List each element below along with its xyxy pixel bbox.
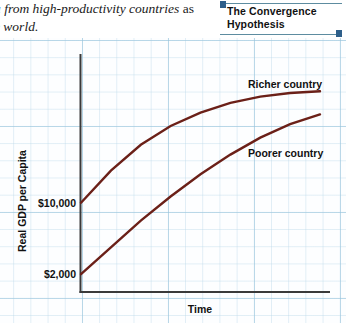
y-axis-tick-label-high: $10,000 — [20, 197, 76, 209]
callout-title-box: The Convergence Hypothesis — [218, 1, 344, 37]
callout-marker-top-left — [220, 1, 226, 8]
y-axis-title: Real GDP per Capita — [16, 141, 28, 261]
figure-title: The Convergence Hypothesis — [227, 5, 339, 31]
series-label-poorer-country: Poorer country — [248, 147, 323, 159]
figure-panel: a from high-productivity countries as e … — [0, 0, 346, 323]
callout-marker-bottom-right — [336, 30, 342, 37]
y-axis-tick-label-low: $2,000 — [20, 268, 76, 280]
series-label-richer-country: Richer country — [248, 78, 322, 90]
series-line-poorer-country — [81, 114, 320, 274]
x-axis-title: Time — [160, 303, 240, 315]
callout-rule-top — [220, 3, 342, 4]
callout-rule-bottom — [220, 34, 342, 35]
